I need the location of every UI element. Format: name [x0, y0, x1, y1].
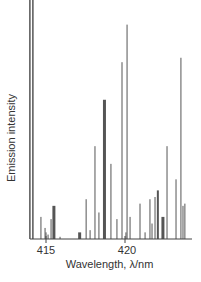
- x-tick-label-415: 415: [37, 244, 55, 256]
- x-tick-label-420: 420: [118, 244, 136, 256]
- emission-lines: [30, 0, 185, 239]
- x-axis-label: Wavelength, λ/nm: [0, 258, 201, 270]
- y-axis-label-text: Emission intensity: [5, 94, 17, 182]
- emission-spectrum-chart: Emission intensity 415 420 Wavelength, λ…: [0, 0, 201, 282]
- y-axis-label: Emission intensity: [4, 0, 18, 282]
- spectrum-plot: [0, 0, 201, 282]
